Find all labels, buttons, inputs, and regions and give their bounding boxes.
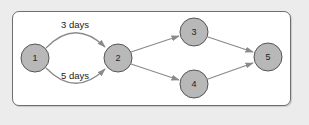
edge-label-5-days: 5 days (61, 70, 89, 81)
network-diagram: 3 days 5 days 1 2 3 4 5 (0, 0, 309, 125)
edge-4-5 (208, 63, 253, 79)
node-4-label: 4 (191, 79, 196, 89)
node-3-label: 3 (191, 27, 196, 37)
node-4: 4 (180, 70, 208, 98)
node-1-label: 1 (32, 53, 37, 63)
edge-2-3 (131, 36, 179, 52)
edge-1-2-upper (46, 33, 105, 48)
edge-3-5 (208, 37, 253, 52)
node-3: 3 (180, 18, 208, 46)
edge-2-4 (131, 64, 179, 80)
node-5: 5 (254, 43, 282, 71)
edge-label-3-days: 3 days (61, 19, 89, 30)
node-5-label: 5 (265, 52, 270, 62)
node-1: 1 (21, 44, 49, 72)
node-2-label: 2 (115, 53, 120, 63)
node-2: 2 (104, 44, 132, 72)
